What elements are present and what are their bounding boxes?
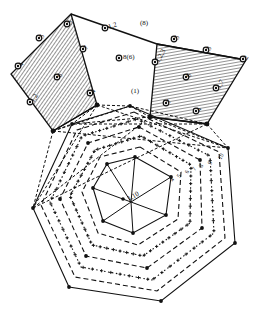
ring-plus-marker	[149, 249, 152, 252]
ring-plus-marker	[69, 196, 72, 199]
ring-plus-marker	[120, 140, 123, 143]
ring-plus-marker	[161, 241, 164, 244]
ring-vertex-dot	[67, 285, 71, 289]
anchor-right	[205, 122, 210, 127]
ring-plus-marker	[189, 182, 192, 185]
ring-plus-marker	[98, 129, 101, 132]
ring-plus-marker	[137, 276, 140, 279]
ring-plus-marker	[102, 146, 105, 149]
ring-plus-marker	[65, 236, 68, 239]
ring-plus-marker	[126, 138, 129, 141]
ring-plus-marker	[105, 127, 108, 130]
ring-plus-marker	[91, 131, 94, 134]
ring-plus-marker	[83, 228, 86, 231]
ring-plus-marker	[181, 159, 184, 162]
ring-plus-marker	[53, 211, 56, 214]
ring-plus-marker	[175, 155, 178, 158]
technical-diagram: 31,2(8)54761,248(6)(1)5321,2,361,774 456…	[0, 0, 271, 326]
ring-plus-marker	[211, 199, 214, 202]
ring-plus-marker	[86, 234, 89, 237]
ring-plus-marker	[125, 251, 128, 254]
ring-plus-marker	[210, 189, 213, 192]
ring-spoke	[131, 202, 166, 215]
ring-plus-marker	[89, 240, 92, 243]
ring-plus-marker	[105, 247, 108, 250]
ring-vertex-dot	[200, 226, 204, 230]
ring-plus-marker	[189, 205, 192, 208]
ring-plus-marker	[189, 197, 192, 200]
ring-plus-marker	[112, 248, 115, 251]
ring-plus-marker	[118, 249, 121, 252]
ring-plus-marker	[189, 212, 192, 215]
vertex-dot	[118, 57, 120, 59]
ring-plus-marker	[82, 266, 85, 269]
ring-plus-marker	[189, 174, 192, 177]
anchor-left	[51, 129, 56, 134]
ring-plus-marker	[72, 202, 75, 205]
ring-plus-marker	[160, 271, 163, 274]
ring-plus-marker	[212, 229, 215, 232]
ring-plus-marker	[138, 135, 141, 138]
anchor-link	[33, 131, 53, 208]
ring-spoke	[93, 188, 131, 202]
ring-plus-marker	[197, 148, 200, 151]
ring-plus-marker	[127, 120, 130, 123]
ring-plus-marker	[81, 221, 84, 224]
ring-plus-marker	[212, 219, 215, 222]
ring-plus-marker	[96, 148, 99, 151]
ring-plus-marker	[146, 278, 149, 281]
ring-plus-marker	[168, 134, 171, 137]
anchor-mid	[95, 103, 100, 108]
ring-vertex-dot	[84, 254, 88, 258]
anchor-link	[97, 105, 130, 106]
ring-plus-marker	[209, 169, 212, 172]
ring-plus-marker	[188, 220, 191, 223]
ring-plus-marker	[79, 136, 82, 139]
ring-plus-marker	[57, 219, 60, 222]
ring-vertex-dot	[86, 141, 90, 145]
ring-plus-marker	[132, 252, 135, 255]
ring-plus-marker	[155, 245, 158, 248]
ring-vertex-dot	[58, 197, 62, 201]
ring-plus-marker	[210, 179, 213, 182]
center-dot	[121, 197, 125, 201]
ring-plus-marker	[211, 209, 214, 212]
anchor-center	[148, 115, 153, 120]
ring-plus-marker	[128, 274, 131, 277]
ring-plus-marker	[83, 168, 86, 171]
ring-plus-marker	[118, 273, 121, 276]
ring-plus-marker	[75, 209, 78, 212]
ring-vertex-dot	[233, 241, 237, 245]
ring-plus-marker	[78, 215, 81, 218]
ring-plus-marker	[71, 154, 74, 157]
ring-plus-marker	[108, 144, 111, 147]
vertex-dot	[104, 27, 106, 29]
ring-label: 6	[184, 169, 191, 174]
ring-spoke	[103, 202, 131, 221]
ring-plus-marker	[78, 262, 81, 265]
ring-plus-marker	[138, 254, 141, 257]
ring-plus-marker	[109, 271, 112, 274]
ring-plus-marker	[176, 259, 179, 262]
ring-vertex-dot	[198, 158, 202, 162]
ring-plus-marker	[100, 269, 103, 272]
node-label: 8(6)	[123, 53, 135, 61]
ring-spoke	[131, 202, 133, 233]
left-hatched-panel	[11, 14, 97, 131]
ring-plus-marker	[188, 163, 191, 166]
ring-label: 10	[217, 152, 225, 160]
ring-plus-marker	[168, 151, 171, 154]
ring-plus-marker	[91, 267, 94, 270]
ring-plus-marker	[59, 179, 62, 182]
ring-vertex-dot	[159, 299, 163, 303]
ring-plus-marker	[92, 244, 95, 247]
ring-plus-marker	[189, 190, 192, 193]
node-label: (1)	[131, 87, 140, 95]
ring-label: 7	[191, 166, 198, 171]
node-label: (8)	[140, 19, 149, 27]
ring-vertex-dot	[145, 266, 149, 270]
hatched-panels-group	[11, 14, 246, 131]
diagram-canvas: 31,2(8)54761,248(6)(1)5321,2,361,774 456…	[0, 0, 271, 326]
ring-label: 8	[198, 163, 205, 168]
ring-plus-marker	[112, 125, 115, 128]
